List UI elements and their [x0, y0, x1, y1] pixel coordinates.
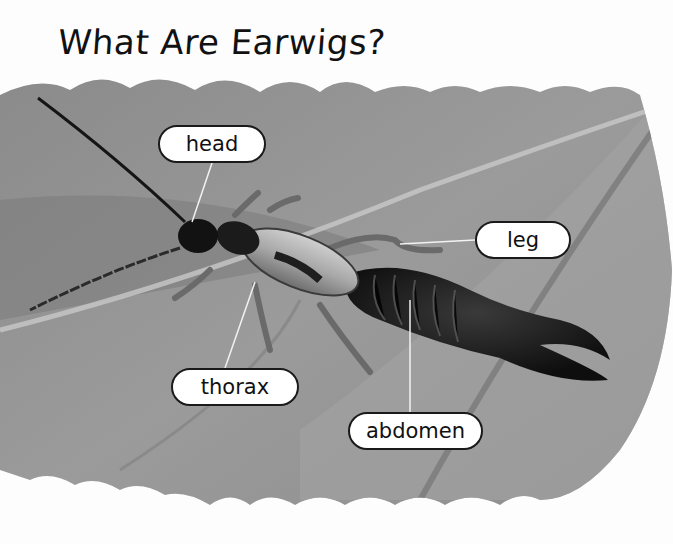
label-abdomen: abdomen: [348, 412, 483, 450]
page-title: What Are Earwigs?: [57, 22, 388, 62]
leaf-background: [0, 60, 673, 520]
book-page: What Are Earwigs? head leg thorax abdome…: [0, 0, 673, 544]
earwig-photo: [0, 0, 673, 544]
label-thorax: thorax: [171, 368, 299, 406]
head-part: [178, 219, 218, 253]
label-head: head: [158, 125, 266, 163]
label-leg: leg: [475, 221, 571, 259]
